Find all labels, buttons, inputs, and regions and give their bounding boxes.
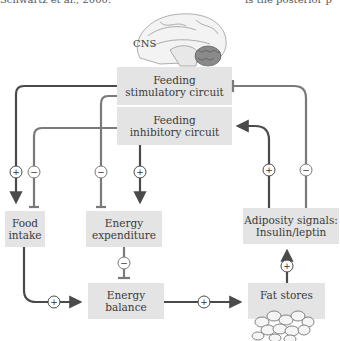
pathway-arrows: + − − + − + + + + − — [0, 0, 340, 341]
plus-sign-fat-to-adiposity: + — [281, 260, 293, 272]
svg-text:−: − — [302, 165, 310, 175]
svg-text:+: + — [12, 167, 20, 177]
svg-text:+: + — [136, 167, 144, 177]
svg-text:−: − — [30, 167, 38, 177]
svg-text:−: − — [97, 167, 105, 177]
minus-sign-food-intake: − — [28, 166, 40, 178]
svg-text:+: + — [200, 297, 208, 307]
fat-cells-icon — [252, 311, 314, 341]
svg-text:+: + — [50, 297, 58, 307]
plus-sign-food-intake: + — [10, 166, 22, 178]
svg-text:−: − — [120, 258, 128, 268]
minus-sign-adiposity-stimulatory: − — [300, 164, 312, 176]
plus-sign-food-to-balance: + — [48, 296, 60, 308]
plus-sign-balance-to-fat: + — [198, 296, 210, 308]
svg-text:+: + — [265, 165, 273, 175]
minus-sign-expenditure: − — [95, 166, 107, 178]
plus-sign-adiposity-inhibitory: + — [263, 164, 275, 176]
plus-sign-expenditure: + — [134, 166, 146, 178]
svg-text:+: + — [283, 261, 291, 271]
minus-sign-balance: − — [118, 257, 130, 269]
